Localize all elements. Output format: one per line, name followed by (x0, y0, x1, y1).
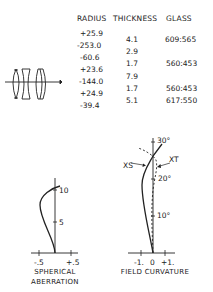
sa-x-tick-pos: +.5 (66, 258, 79, 267)
sa-title-line1: SPHERICAL (28, 268, 82, 276)
field-curvature-plot (128, 138, 175, 256)
fc-x-tick-neg1: -1. (134, 258, 144, 267)
fc-y-tick-30: 30° (157, 136, 170, 145)
sa-x-tick-neg: -.5 (34, 258, 44, 267)
fc-label-tangential: XT (169, 155, 179, 164)
fc-x-tick-0: 0 (150, 258, 155, 267)
fc-label-sagittal: XS (123, 161, 133, 170)
fc-title: FIELD CURVATURE (115, 268, 195, 276)
lens-layout-diagram (0, 0, 213, 292)
sa-y-tick-10: 10 (59, 186, 69, 195)
sa-y-tick-5: 5 (59, 218, 64, 227)
sa-title-line2: ABERRATION (28, 278, 82, 286)
fc-x-tick-pos1: +1. (161, 258, 174, 267)
spherical-aberration-plot (31, 178, 78, 256)
fc-y-tick-20: 20° (158, 174, 171, 183)
fc-y-tick-10: 10° (157, 211, 170, 220)
